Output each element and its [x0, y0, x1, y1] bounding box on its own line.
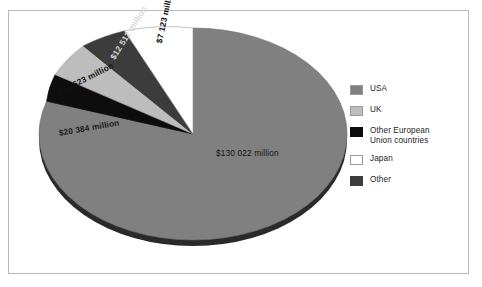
chart-figure: $130 022 million $15 623 million $12 512… — [0, 0, 482, 287]
slice-label-usa: $130 022 million — [216, 148, 279, 158]
legend-swatch-japan — [350, 155, 363, 165]
legend-item-japan[interactable]: Japan — [350, 154, 462, 165]
legend-label-other-eu: Other European Union countries — [370, 126, 430, 145]
legend-label-uk: UK — [370, 105, 382, 115]
legend-swatch-other-eu — [350, 127, 363, 137]
legend-item-other-eu[interactable]: Other European Union countries — [350, 126, 462, 145]
legend-item-uk[interactable]: UK — [350, 105, 462, 116]
legend-label-japan: Japan — [370, 154, 393, 164]
legend-swatch-usa — [350, 85, 363, 95]
legend-label-usa: USA — [370, 84, 387, 94]
legend-label-other: Other — [370, 175, 391, 185]
legend-item-usa[interactable]: USA — [350, 84, 462, 95]
legend-swatch-uk — [350, 106, 363, 116]
legend-item-other[interactable]: Other — [350, 175, 462, 186]
chart-legend: USA UK Other European Union countries Ja… — [350, 84, 462, 196]
legend-swatch-other — [350, 176, 363, 186]
